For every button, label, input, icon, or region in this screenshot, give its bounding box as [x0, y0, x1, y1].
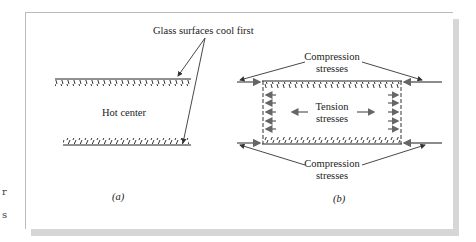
caption-b: (b) — [333, 193, 346, 205]
compression-bottom-leader-left — [240, 145, 305, 165]
compression-bottom-label-line2: stresses — [316, 170, 348, 181]
compression-top-label-line2: stresses — [316, 63, 348, 74]
compression-bottom-leader-right — [362, 145, 425, 165]
block-top-hatch — [262, 82, 402, 88]
compression-bottom-label-line1: Compression — [304, 158, 360, 169]
block-bottom-hatch — [262, 137, 402, 143]
bottom-surface-hatch — [63, 138, 189, 144]
compression-top-label-line1: Compression — [304, 51, 360, 62]
caption-a: (a) — [112, 191, 125, 203]
callout-label: Glass surfaces cool first — [153, 25, 254, 36]
stress-diagram: Glass surfaces cool first Hot center (a) — [0, 0, 476, 242]
compression-top-leader-right — [362, 62, 422, 80]
hot-center-label: Hot center — [102, 107, 147, 118]
panel-a: Glass surfaces cool first Hot center (a) — [55, 25, 254, 203]
tension-arrows-right — [388, 95, 398, 129]
top-surface-hatch — [55, 80, 191, 86]
compression-top-leader-left — [240, 62, 305, 80]
tension-label-line2: stresses — [316, 113, 348, 124]
tension-label-line1: Tension — [315, 101, 349, 112]
panel-b: Tension stresses Compression stresses Co… — [237, 51, 442, 205]
tension-arrows-left — [266, 95, 276, 129]
